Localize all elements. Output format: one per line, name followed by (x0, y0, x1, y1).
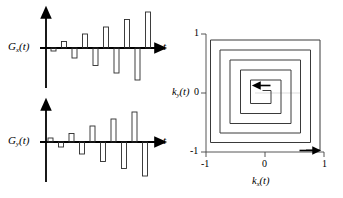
kspace-xtick-0: 0 (262, 159, 267, 169)
gx-axis-label: Gx(t) (8, 41, 29, 54)
kspace-xtick-1: 1 (322, 159, 327, 169)
gx-label-main: G (8, 40, 16, 52)
kspace-x-axis-title: kx(t) (252, 176, 269, 187)
gy-axis-label: Gy(t) (8, 135, 29, 148)
gx-bars (51, 12, 151, 80)
kspace-ytick-1: 1 (194, 28, 199, 38)
gy-label-main: G (8, 134, 16, 146)
kspace-panel (201, 34, 324, 157)
gy-time-axis-label: t (163, 135, 166, 146)
kspace-ytick-0: 0 (194, 87, 199, 97)
kspace-y-axis-title: ky(t) (172, 87, 189, 98)
kspace-spiral-path (211, 40, 321, 150)
gy-panel (40, 109, 156, 182)
gx-time-axis-label: t (163, 41, 166, 52)
gx-panel (40, 12, 156, 88)
gx-label-paren: (t) (19, 40, 29, 52)
kspace-ticks (201, 34, 324, 157)
figure-canvas: Gx(t) t Gy(t) t 1 0 -1 -1 0 1 ky(t) kx(t… (0, 0, 343, 198)
gy-bars (48, 112, 148, 176)
ky-label-paren: (t) (180, 86, 190, 97)
gy-label-paren: (t) (19, 134, 29, 146)
kx-label-paren: (t) (260, 175, 270, 186)
kspace-ytick-neg1: -1 (190, 146, 198, 156)
kspace-xtick-neg1: -1 (201, 159, 209, 169)
figure-svg (0, 0, 343, 198)
